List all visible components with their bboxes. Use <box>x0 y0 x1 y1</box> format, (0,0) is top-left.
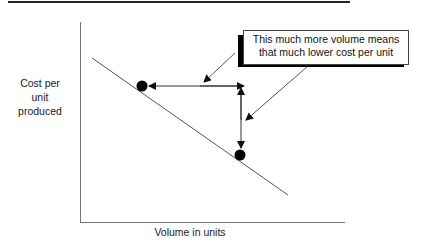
low-volume-point <box>137 81 148 92</box>
y-axis-label: Cost per unit produced <box>12 76 68 118</box>
y-axis-label-line: produced <box>12 104 68 118</box>
x-axis-label: Volume in units <box>115 226 265 238</box>
y-axis-label-line: unit <box>12 90 68 104</box>
callout-pointer-cost <box>246 66 308 120</box>
high-volume-point <box>235 150 246 161</box>
cost-line <box>92 58 288 195</box>
callout-box: This much more volume means that much lo… <box>243 30 409 65</box>
callout-line: This much more volume means <box>244 33 408 46</box>
callout-line: that much lower cost per unit <box>244 46 408 59</box>
callout-pointer-volume <box>204 53 235 82</box>
y-axis-label-line: Cost per <box>12 76 68 90</box>
